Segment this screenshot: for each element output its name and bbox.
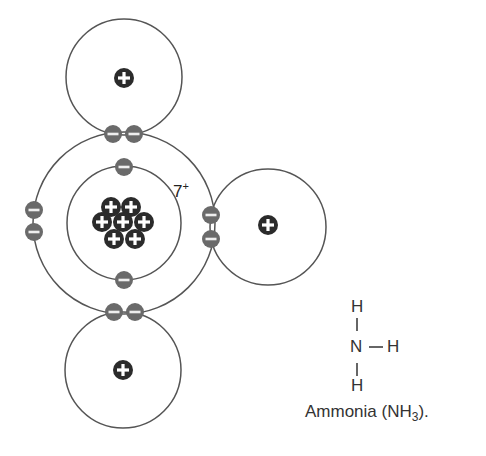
lone-pair-electron-1-icon	[25, 201, 43, 219]
caption: Ammonia (NH3).	[305, 402, 429, 424]
nucleus-charge-label: 7+	[173, 180, 189, 202]
lone-pair-electron-2-icon	[25, 223, 43, 241]
shared-electron-top-1-icon	[104, 125, 122, 143]
shared-electron-right-1-icon	[202, 206, 220, 224]
formula-bottom-h: H	[351, 376, 363, 396]
inner-electron-bottom-icon	[115, 271, 133, 289]
hydrogen-bottom-proton-icon	[113, 360, 133, 380]
hydrogen-right-proton-icon	[258, 215, 278, 235]
formula-center-n: N	[350, 337, 362, 357]
shared-electron-bottom-1-icon	[105, 303, 123, 321]
formula-right-h: H	[387, 337, 399, 357]
inner-electron-top-icon	[115, 158, 133, 176]
ammonia-shell-diagram	[0, 0, 486, 456]
shared-electron-right-2-icon	[202, 230, 220, 248]
shared-electron-bottom-2-icon	[126, 303, 144, 321]
hydrogen-top-proton-icon	[114, 68, 134, 88]
formula-top-h: H	[351, 297, 363, 317]
shared-electron-top-2-icon	[125, 125, 143, 143]
